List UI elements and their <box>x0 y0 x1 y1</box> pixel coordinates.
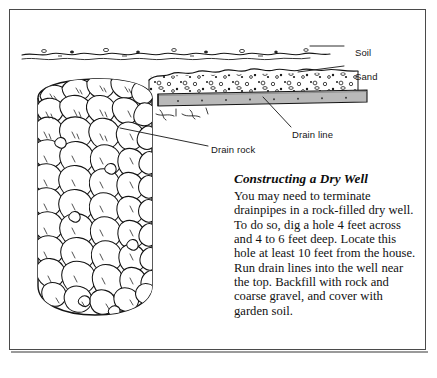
subsoil-hatching <box>156 108 208 120</box>
soil-surface-layer <box>22 48 330 59</box>
callout-label-drain-rock: Drain rock <box>211 145 255 155</box>
callout-label-drain-line: Drain line <box>292 130 333 140</box>
soil-surface-line-secondary <box>22 58 310 60</box>
article-body-text: You may need to terminate drainpipes in … <box>234 189 416 318</box>
callout-label-sand: Sand <box>355 72 378 82</box>
article-block: Constructing a Dry Well You may need to … <box>234 171 416 318</box>
drain-rock-cluster <box>32 75 160 316</box>
figure-frame: Soil Sand Drain line Drain rock Construc… <box>9 9 426 350</box>
article-heading: Constructing a Dry Well <box>234 171 416 186</box>
soil-surface-line <box>22 53 330 55</box>
dry-well-rock-cylinder <box>32 75 160 316</box>
callout-label-soil: Soil <box>355 48 371 58</box>
page-canvas: Soil Sand Drain line Drain rock Construc… <box>0 0 437 378</box>
